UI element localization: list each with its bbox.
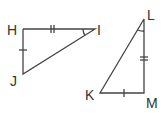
vertex-label-k: K [85,87,95,103]
vertex-label-j: J [10,73,17,89]
angle-arc-l [138,30,145,31]
vertex-label-i: I [97,22,101,38]
vertex-label-m: M [146,95,158,111]
triangle-hij-outline [23,29,95,74]
triangle-klm [100,19,148,97]
vertex-label-h: H [7,22,17,38]
triangle-hij [19,25,95,74]
angle-arc-i [83,29,85,36]
congruent-triangles-diagram: H I J L K M [0,0,164,113]
triangle-klm-outline [100,19,144,93]
vertex-label-l: L [147,7,155,23]
